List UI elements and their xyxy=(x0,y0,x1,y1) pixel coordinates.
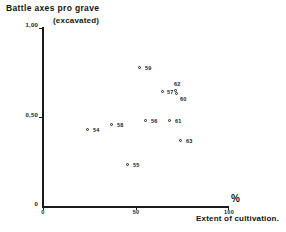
data-point-label: 59 xyxy=(145,65,151,71)
data-point-label: 57 xyxy=(167,89,173,95)
data-point-marker xyxy=(175,92,178,95)
data-point-label: 61 xyxy=(175,118,181,124)
data-point-label: 54 xyxy=(93,127,99,133)
data-point-marker xyxy=(126,163,129,166)
data-point-marker xyxy=(138,66,141,69)
scatter-chart-figure: Battle axes pro grave (excavated) 1,00 0… xyxy=(0,0,286,232)
data-point-marker xyxy=(168,119,171,122)
plot-area: 54585559565762606163 xyxy=(0,0,286,232)
data-point-label: 58 xyxy=(117,122,123,128)
data-point-label: 56 xyxy=(151,118,157,124)
data-point-marker xyxy=(110,123,113,126)
data-point-label: 60 xyxy=(180,96,186,102)
data-point-marker xyxy=(179,139,182,142)
data-point-marker xyxy=(86,128,89,131)
data-point-marker xyxy=(144,119,147,122)
data-point-marker xyxy=(161,90,164,93)
data-point-label: 63 xyxy=(186,138,192,144)
data-point-label: 62 xyxy=(174,81,180,87)
data-point-label: 55 xyxy=(133,162,139,168)
